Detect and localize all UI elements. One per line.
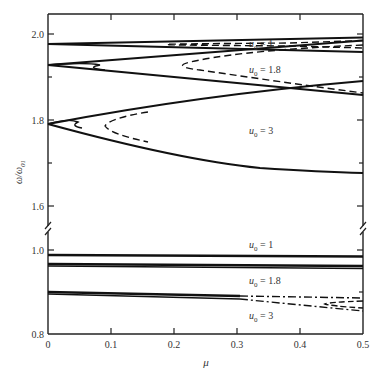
- curve-u0-3-lower: [48, 124, 363, 173]
- x-tick-label: 0.2: [168, 339, 181, 350]
- y-tick-label: 1.0: [32, 245, 45, 256]
- y-tick-label: 1.6: [32, 201, 45, 212]
- curve-u0-3-upper: [48, 81, 363, 124]
- curve-lower-u0-1: [48, 255, 363, 257]
- annotation-u0-3-upper: u0 = 3: [249, 125, 273, 139]
- y-tick-labels: 2.0 1.8 1.6 1.0 0.8: [32, 29, 45, 340]
- annotation-u0-1.8-lower: u0 = 1.8: [249, 275, 281, 289]
- x-tick-label: 0: [46, 339, 51, 350]
- x-tick-label: 0.5: [357, 339, 370, 350]
- lower-panel-curves: [48, 255, 363, 311]
- x-tick-label: 0.3: [231, 339, 244, 350]
- x-axis-label: μ: [202, 356, 209, 368]
- svg-text:ω/ω01: ω/ω01: [13, 160, 27, 184]
- axis-break-icon: [45, 222, 366, 235]
- y-tick-label: 0.8: [32, 329, 45, 340]
- chart-canvas: 0 0.1 0.2 0.3 0.4 0.5 2.0 1.8 1.6 1.0 0.…: [0, 0, 383, 379]
- annotation-u0-1.8-upper: u0 = 1.8: [249, 64, 281, 78]
- upper-panel-curves: [48, 38, 363, 174]
- curve-lower-u0-3-inner-dashed: [325, 301, 363, 308]
- x-tick-labels: 0 0.1 0.2 0.3 0.4 0.5: [46, 339, 370, 350]
- y-tick-label: 2.0: [32, 29, 45, 40]
- x-tick-label: 0.4: [294, 339, 307, 350]
- x-tick-label: 0.1: [105, 339, 118, 350]
- x-ticks: [111, 14, 300, 334]
- y-ticks: [48, 34, 363, 292]
- curve-lower-u0-3-dashdot-upper: [240, 296, 363, 298]
- curve-u0-1.8-lower: [48, 65, 363, 95]
- y-tick-label: 1.8: [32, 115, 45, 126]
- annotation-u0-3-lower: u0 = 3: [249, 310, 273, 324]
- curve-u0-3-inner-dashed: [105, 112, 148, 142]
- y-axis-label: ω/ω01: [13, 160, 27, 184]
- annotation-u0-1-lower: u0 = 1: [249, 239, 273, 253]
